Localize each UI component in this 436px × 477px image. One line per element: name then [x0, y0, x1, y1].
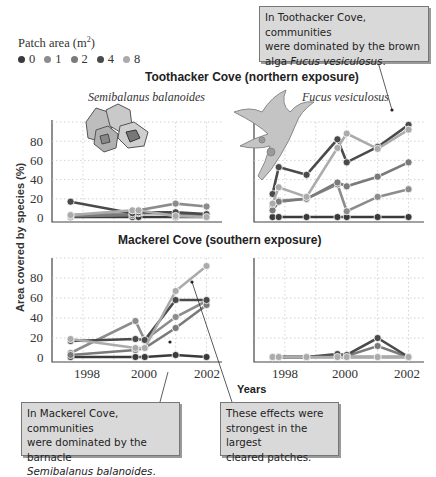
data-point: [203, 262, 210, 269]
data-point: [405, 213, 412, 220]
data-point: [303, 193, 310, 200]
data-point: [303, 353, 310, 360]
data-point: [343, 130, 350, 137]
data-point: [275, 164, 282, 171]
data-point: [343, 208, 350, 215]
data-point: [203, 296, 210, 303]
callout-mackerel: In Mackerel Cove, communities were domin…: [21, 402, 180, 456]
data-point: [405, 159, 412, 166]
data-point: [172, 351, 179, 358]
callout-largest-patches: These effects were strongest in the larg…: [220, 402, 339, 456]
data-point: [374, 353, 381, 360]
data-point: [141, 344, 148, 351]
data-point: [132, 344, 139, 351]
data-point: [67, 351, 74, 358]
data-point: [172, 200, 179, 207]
data-point: [203, 353, 210, 360]
data-point: [135, 207, 142, 214]
series-lines: [67, 121, 412, 360]
axes: [52, 120, 424, 362]
data-point: [141, 353, 148, 360]
data-point: [275, 213, 282, 220]
data-point: [303, 213, 310, 220]
data-point: [67, 335, 74, 342]
data-point: [67, 212, 74, 219]
series-line-1: [273, 184, 409, 211]
data-point: [303, 171, 310, 178]
data-point: [374, 334, 381, 341]
data-point: [172, 287, 179, 294]
data-point: [132, 317, 139, 324]
data-point: [334, 353, 341, 360]
data-point: [132, 353, 139, 360]
data-point: [132, 335, 139, 342]
data-point: [269, 207, 276, 214]
data-point: [343, 159, 350, 166]
data-point: [405, 186, 412, 193]
data-point: [374, 193, 381, 200]
data-point: [203, 213, 210, 220]
callout-toothacker: In Toothacker Cove, communities were dom…: [259, 6, 429, 62]
data-point: [172, 212, 179, 219]
data-point: [275, 353, 282, 360]
data-point: [269, 200, 276, 207]
data-point: [405, 353, 412, 360]
barnacle-illustration: [86, 104, 148, 152]
series-line-8: [71, 266, 207, 348]
data-point: [334, 179, 341, 186]
data-point: [374, 173, 381, 180]
data-point: [374, 145, 381, 152]
data-point: [405, 126, 412, 133]
series-line-1: [71, 301, 207, 353]
data-point: [275, 184, 282, 191]
data-point: [334, 213, 341, 220]
data-point: [334, 144, 341, 151]
data-point: [374, 342, 381, 349]
data-point: [343, 183, 350, 190]
data-point: [343, 353, 350, 360]
data-point: [172, 313, 179, 320]
seaweed-illustration: [234, 90, 314, 180]
data-point: [67, 198, 74, 205]
data-point: [172, 324, 179, 331]
data-point: [203, 203, 210, 210]
gridlines: [52, 122, 424, 361]
data-point: [374, 213, 381, 220]
